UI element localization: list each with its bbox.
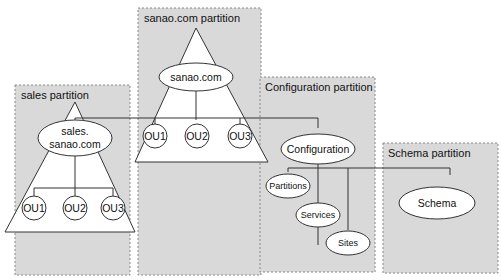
svg-text:OU1: OU1 [144,130,166,142]
svg-text:OU3: OU3 [229,130,251,142]
svg-text:sanao.com: sanao.com [49,138,101,150]
svg-text:Sites: Sites [338,238,359,248]
svg-text:sales.: sales. [61,125,88,137]
sanao-partition-label: sanao.com partition [144,12,240,24]
sales-partition-label: sales partition [21,89,89,101]
svg-text:Configuration: Configuration [287,143,350,155]
ad-partitions-diagram: sales partition sanao.com partition Conf… [0,0,502,280]
schema-partition-label: Schema partition [388,147,471,159]
svg-text:OU3: OU3 [102,202,124,214]
sales-ou-nodes: OU1 OU2 OU3 [22,196,125,220]
svg-text:OU2: OU2 [186,130,208,142]
svg-text:Schema: Schema [418,197,457,209]
svg-text:Partitions: Partitions [269,181,307,191]
svg-text:sanao.com: sanao.com [170,71,222,83]
svg-text:Services: Services [301,210,336,220]
svg-text:OU2: OU2 [64,202,86,214]
sanao-ou-nodes: OU1 OU2 OU3 [143,124,252,148]
svg-text:OU1: OU1 [23,202,45,214]
config-partition-label: Configuration partition [265,81,373,93]
